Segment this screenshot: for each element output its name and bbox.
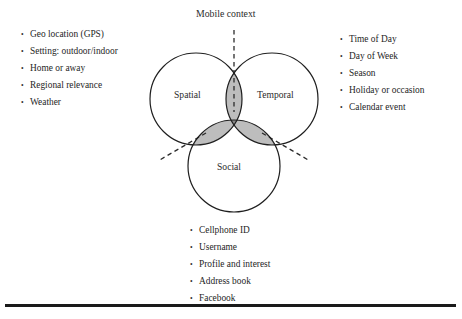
social-attribute-list: Cellphone ID Username Profile and intere… bbox=[190, 222, 270, 307]
list-item: Calendar event bbox=[340, 99, 425, 116]
list-item: Time of Day bbox=[340, 31, 425, 48]
list-item: Geo location (GPS) bbox=[21, 26, 118, 43]
list-item: Setting: outdoor/indoor bbox=[21, 43, 118, 60]
circle-label-temporal: Temporal bbox=[257, 89, 294, 101]
list-item: Day of Week bbox=[340, 48, 425, 65]
list-item: Username bbox=[190, 239, 270, 256]
list-item: Weather bbox=[21, 94, 118, 111]
list-item: Address book bbox=[190, 273, 270, 290]
list-item: Cellphone ID bbox=[190, 222, 270, 239]
bottom-divider-rule bbox=[5, 304, 456, 307]
list-item: Home or away bbox=[21, 60, 118, 77]
temporal-attribute-list: Time of Day Day of Week Season Holiday o… bbox=[340, 31, 425, 116]
circle-label-spatial: Spatial bbox=[174, 89, 201, 101]
circle-label-social: Social bbox=[217, 161, 241, 173]
mobile-context-label: Mobile context bbox=[196, 8, 256, 20]
list-item: Season bbox=[340, 65, 425, 82]
venn-figure: Mobile context Spatial Temporal Social G… bbox=[0, 0, 462, 319]
list-item: Regional relevance bbox=[21, 77, 118, 94]
spatial-attribute-list: Geo location (GPS) Setting: outdoor/indo… bbox=[21, 26, 118, 111]
list-item: Holiday or occasion bbox=[340, 82, 425, 99]
list-item: Profile and interest bbox=[190, 256, 270, 273]
